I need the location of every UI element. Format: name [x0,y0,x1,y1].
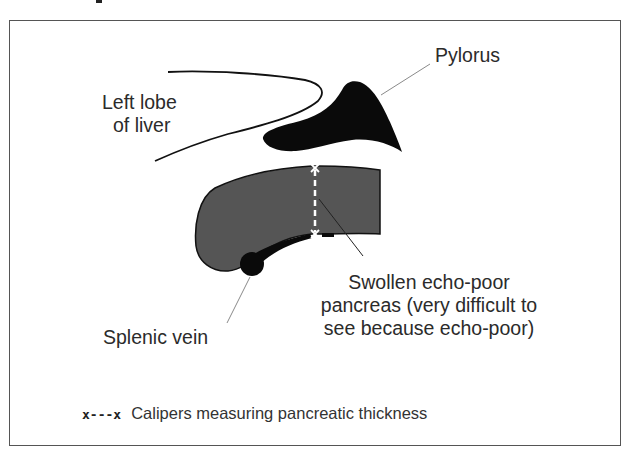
caliper-legend-icon: x---x [82,407,121,422]
label-pancreas-line1: Swollen echo-poor [298,271,560,294]
label-pylorus: Pylorus [435,44,500,67]
pancreas-shape [196,166,380,271]
label-left-lobe-line2: of liver [102,114,177,137]
legend: x---xCalipers measuring pancreatic thick… [82,404,427,423]
splenic-vein-circle [240,252,264,276]
splenic-vein-leader [227,277,250,323]
splenic-vein-stub [322,233,334,237]
label-pancreas: Swollen echo-poor pancreas (very difficu… [298,271,560,340]
label-left-lobe-line1: Left lobe [102,91,177,114]
label-left-lobe-of-liver: Left lobe of liver [102,91,177,137]
label-pancreas-line2: pancreas (very difficult to [298,294,560,317]
label-pancreas-line3: see because echo-poor) [298,317,560,340]
pylorus-shape [263,81,402,152]
pylorus-leader [381,64,430,95]
anatomy-illustration [0,0,638,470]
legend-text: Calipers measuring pancreatic thickness [131,404,427,422]
label-splenic-vein: Splenic vein [103,326,208,349]
